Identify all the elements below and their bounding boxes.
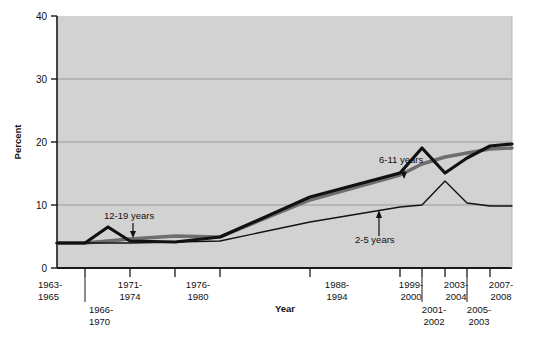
percent-by-year-line-chart: 40 30 20 10 0 Percent 1963-: [0, 0, 540, 341]
x-tick-label-2007-2008-a: 2007-: [489, 279, 513, 290]
y-tick-label-10: 10: [36, 200, 48, 211]
x-tick-label-1963-1965-b: 1965: [38, 291, 59, 302]
x-axis-title: Year: [275, 303, 295, 314]
y-tick-label-30: 30: [36, 74, 48, 85]
y-axis-ticks: [51, 16, 57, 268]
annotation-label-2-5-years: 2-5 years: [355, 234, 395, 245]
y-tick-label-0: 0: [41, 263, 47, 274]
y-tick-label-40: 40: [36, 11, 48, 22]
x-tick-label-2001-2002-b: 2002: [423, 316, 444, 327]
x-tick-label-2003-2004-a: 2003-: [444, 279, 468, 290]
x-tick-label-1976-1980-b: 1980: [187, 291, 208, 302]
x-tick-label-1966-1970-b: 1970: [89, 316, 110, 327]
y-tick-label-20: 20: [36, 137, 48, 148]
x-tick-label-2001-2002-a: 2001-: [422, 304, 446, 315]
x-tick-label-2007-2008-b: 2008: [490, 291, 511, 302]
x-tick-label-1999-2000-b: 2000: [400, 291, 421, 302]
x-tick-label-1976-1980-a: 1976-: [186, 279, 210, 290]
x-tick-label-1971-1974-b: 1974: [119, 291, 140, 302]
x-tick-label-2005-2003-a: 2005-: [467, 304, 491, 315]
x-tick-label-1988-1994-b: 1994: [326, 291, 347, 302]
chart-container: 40 30 20 10 0 Percent 1963-: [0, 0, 540, 341]
x-tick-label-1988-1994-a: 1988-: [325, 279, 349, 290]
x-axis-ticks: [85, 268, 490, 277]
x-tick-label-1966-1970-a: 1966-: [89, 304, 113, 315]
x-tick-label-2003-2004-b: 2004: [445, 291, 466, 302]
annotation-label-6-11-years: 6-11 years: [379, 154, 423, 165]
annotation-label-12-19-years: 12-19 years: [104, 210, 154, 221]
x-tick-label-1999-2000-a: 1999-: [399, 279, 423, 290]
y-axis-title: Percent: [12, 124, 23, 160]
x-tick-labels-row1: 1963- 1965 1971- 1974 1976- 1980 1988- 1…: [38, 279, 513, 302]
x-tick-label-2005-2003-b: 2003: [468, 316, 489, 327]
x-tick-label-1971-1974-a: 1971-: [118, 279, 142, 290]
x-tick-label-1963-1965-a: 1963-: [38, 279, 62, 290]
